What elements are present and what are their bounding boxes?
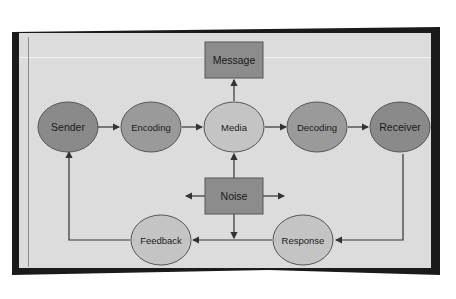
response-node: Response (273, 215, 333, 265)
message-label: Message (213, 54, 256, 66)
decoding-label: Decoding (297, 122, 337, 133)
feedback-label: Feedback (140, 235, 182, 246)
sender-label: Sender (51, 121, 85, 133)
communication-diagram: Message Sender Encoding Media Decoding R… (0, 0, 456, 299)
receiver-node: Receiver (370, 102, 430, 152)
encoding-label: Encoding (131, 122, 171, 133)
noise-node: Noise (205, 178, 263, 214)
edge-feedback-sender (69, 152, 130, 240)
receiver-label: Receiver (379, 121, 421, 133)
response-label: Response (282, 235, 325, 246)
message-node: Message (205, 42, 263, 78)
feedback-node: Feedback (131, 215, 191, 265)
media-node: Media (204, 102, 264, 152)
edge-receiver-response (336, 154, 403, 240)
encoding-node: Encoding (121, 102, 181, 152)
sender-node: Sender (38, 102, 98, 152)
noise-label: Noise (221, 190, 248, 202)
decoding-node: Decoding (287, 102, 347, 152)
media-label: Media (221, 122, 248, 133)
